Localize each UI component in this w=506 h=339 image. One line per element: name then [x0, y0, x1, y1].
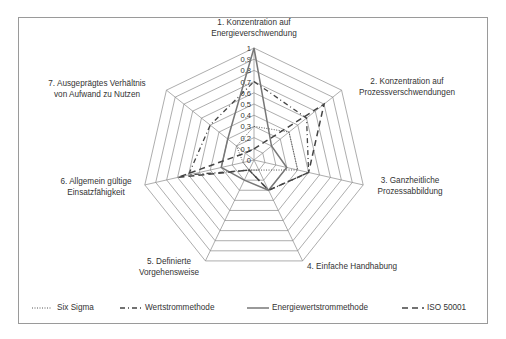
- legend-label: ISO 50001: [427, 303, 466, 312]
- axis-label: Vorgehensweise: [139, 268, 200, 277]
- axis-label: Prozessabbildung: [377, 187, 443, 196]
- dashed-line-icon: [402, 304, 424, 312]
- axis-label: Einsatzfähigkeit: [67, 188, 125, 197]
- dotted-line-icon: [32, 304, 54, 312]
- radar-chart: 00,10,20,30,40,50,60,70,80,911. Konzentr…: [0, 0, 506, 339]
- solid-line-icon: [247, 304, 269, 312]
- axis-label: Prozessverschwendungen: [359, 88, 455, 97]
- legend-label: Energiewertstrommethode: [272, 303, 368, 312]
- tick-label: 0,1: [240, 145, 251, 154]
- tick-label: 0,4: [240, 111, 251, 120]
- tick-label: 0,2: [240, 134, 251, 143]
- tick-label: 0: [247, 156, 251, 165]
- axis-label: 5. Definierte: [147, 257, 192, 266]
- axis-label: 3. Ganzheitliche: [381, 176, 440, 185]
- tick-label: 0,3: [240, 122, 251, 131]
- legend-label: Wertstrommethode: [145, 303, 214, 312]
- axis-label: 4. Einfache Handhabung: [307, 262, 398, 271]
- legend-item-energiewertstrommethode: Energiewertstrommethode: [247, 303, 368, 312]
- legend-label: Six Sigma: [57, 303, 94, 312]
- axis-label: von Aufwand zu Nutzen: [54, 90, 140, 99]
- legend: Six Sigma Wertstrommethode Energiewertst…: [18, 298, 488, 320]
- axis-label: 6. Allgemein gültige: [60, 177, 131, 186]
- legend-item-wertstrommethode: Wertstrommethode: [120, 303, 214, 312]
- legend-item-iso-50001: ISO 50001: [402, 303, 466, 312]
- axis-spoke: [145, 160, 254, 185]
- axis-label: 7. Ausgeprägtes Verhältnis: [48, 79, 145, 88]
- dash-dot-line-icon: [120, 304, 142, 312]
- legend-item-six-sigma: Six Sigma: [32, 303, 94, 312]
- axis-label: Energieverschwendung: [211, 29, 297, 38]
- tick-label: 1: [247, 44, 251, 53]
- axis-label: 2. Konzentration auf: [370, 77, 444, 86]
- tick-label: 0,5: [240, 100, 251, 109]
- axis-label: 1. Konzentration auf: [217, 18, 291, 27]
